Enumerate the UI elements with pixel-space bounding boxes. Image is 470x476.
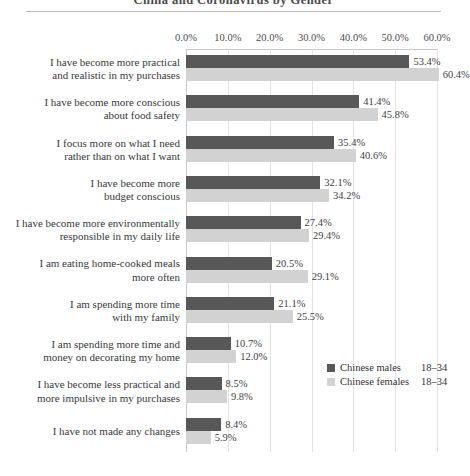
bar-male [186, 257, 272, 270]
bar-female [186, 108, 378, 121]
bar-value-label: 21.1% [278, 297, 305, 310]
bar-value-label: 10.7% [235, 337, 262, 350]
bar-value-label: 41.4% [363, 95, 390, 108]
bar-female [186, 189, 329, 202]
bar-female [186, 68, 439, 81]
gridline-60 [437, 49, 438, 452]
bar-value-label: 45.8% [382, 108, 409, 121]
bar-male [186, 55, 409, 68]
legend-series-name: Chinese females [340, 375, 409, 389]
bar-female [186, 229, 309, 242]
bar-group: 41.4%45.8% [186, 89, 437, 129]
y-axis-category-labels: I have become more practical and realist… [0, 49, 180, 452]
category-label: I have not made any changes [0, 425, 180, 438]
category-label: I have become less practical and more im… [0, 378, 180, 404]
category-label: I am eating home-cooked meals more often [0, 257, 180, 283]
chart-legend: Chinese males18–34Chinese females18–34 [327, 361, 467, 389]
bar-value-label: 32.1% [324, 176, 351, 189]
category-label: I am spending more time with my family [0, 298, 180, 324]
bar-male [186, 418, 221, 431]
bar-female [186, 270, 308, 283]
bar-value-label: 53.4% [413, 55, 440, 68]
bar-value-label: 9.8% [231, 390, 253, 403]
bar-value-label: 34.2% [333, 189, 360, 202]
bar-male [186, 216, 301, 229]
bar-male [186, 377, 222, 390]
bar-male [186, 297, 274, 310]
category-label: I am spending more time and money on dec… [0, 338, 180, 364]
bar-male [186, 337, 231, 350]
title-divider [26, 11, 441, 12]
legend-item: Chinese males18–34 [327, 361, 467, 375]
category-label: I focus more on what I need rather than … [0, 137, 180, 163]
bar-group: 32.1%34.2% [186, 170, 437, 210]
x-axis-tick-labels: 0.0%10.0%20.0%30.0%40.0%50.0%60.0% [0, 31, 467, 44]
legend-age-range: 18–34 [421, 375, 447, 389]
chart-title-clipped: China and Coronavirus by Gender [0, 0, 467, 9]
bar-female [186, 390, 227, 403]
bar-group: 8.4%5.9% [186, 412, 437, 452]
bar-value-label: 5.9% [215, 431, 237, 444]
bar-value-label: 40.6% [360, 149, 387, 162]
bar-female [186, 149, 356, 162]
bar-value-label: 27.4% [305, 216, 332, 229]
bar-value-label: 25.5% [297, 310, 324, 323]
bar-value-label: 29.4% [313, 229, 340, 242]
legend-series-name: Chinese males [340, 361, 401, 375]
bar-value-label: 20.5% [276, 257, 303, 270]
legend-swatch-icon [327, 378, 335, 386]
bar-male [186, 176, 320, 189]
category-label: I have become more environmentally respo… [0, 217, 180, 243]
bar-value-label: 12.0% [240, 350, 267, 363]
bar-female [186, 310, 293, 323]
chart-title: China and Coronavirus by Gender [0, 0, 467, 9]
legend-age-range: 18–34 [421, 361, 447, 375]
category-label: I have become more practical and realist… [0, 56, 180, 82]
bar-value-label: 35.4% [338, 136, 365, 149]
bar-female [186, 431, 211, 444]
legend-swatch-icon [327, 364, 335, 372]
bar-group: 21.1%25.5% [186, 291, 437, 331]
bar-value-label: 29.1% [312, 270, 339, 283]
bar-male [186, 95, 359, 108]
category-label: I have become more budget conscious [0, 177, 180, 203]
plot-area: 53.4%60.4%41.4%45.8%35.4%40.6%32.1%34.2%… [186, 49, 437, 452]
bar-value-label: 8.4% [225, 418, 247, 431]
bar-male [186, 136, 334, 149]
bar-group: 35.4%40.6% [186, 130, 437, 170]
x-axis-tick-60: 60.0% [409, 31, 465, 44]
bar-group: 27.4%29.4% [186, 210, 437, 250]
bar-female [186, 350, 236, 363]
legend-item: Chinese females18–34 [327, 375, 467, 389]
bar-value-label: 8.5% [226, 377, 248, 390]
bar-value-label: 60.4% [443, 68, 470, 81]
bar-group: 20.5%29.1% [186, 251, 437, 291]
bar-group: 53.4%60.4% [186, 49, 437, 89]
category-label: I have become more conscious about food … [0, 96, 180, 122]
